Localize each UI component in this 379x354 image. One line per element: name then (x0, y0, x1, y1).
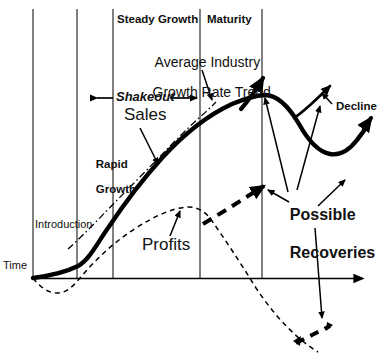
rapid-growth-line-2: Growth (96, 183, 136, 195)
stage-label-introduction: Introduction (35, 219, 92, 231)
possible-recovery-low-arrowhead (326, 322, 333, 331)
possible-recovery-low (296, 326, 330, 343)
axis-label-time: Time (3, 260, 27, 272)
leader-profits (170, 211, 180, 236)
possible-recoveries-line-1: Possible (290, 206, 356, 223)
stage-label-steady-growth: Steady Growth (117, 13, 198, 25)
rapid-growth-line-1: Rapid (96, 158, 128, 170)
series-label-profits: Profits (142, 236, 190, 254)
trend-line-1: Average Industry (155, 54, 261, 70)
decline-rebound-arrow (294, 86, 330, 118)
possible-recovery-mid (203, 186, 264, 224)
leader-decline (322, 93, 332, 104)
possible-recoveries-line-2: Recoveries (290, 244, 375, 261)
leader-possible-a (265, 98, 288, 192)
series-label-sales: Sales (124, 106, 167, 124)
stage-label-maturity: Maturity (207, 13, 252, 25)
product-life-cycle-diagram: Time Introduction Rapid Growth Steady Gr… (0, 0, 379, 354)
stage-label-rapid-growth: Rapid Growth (83, 146, 136, 208)
callout-possible-recoveries: Possible Recoveries (272, 187, 375, 281)
stage-label-decline: Decline (336, 100, 377, 112)
leader-sales (140, 128, 158, 164)
trend-line-2: Growth Rate Trend (153, 84, 271, 100)
